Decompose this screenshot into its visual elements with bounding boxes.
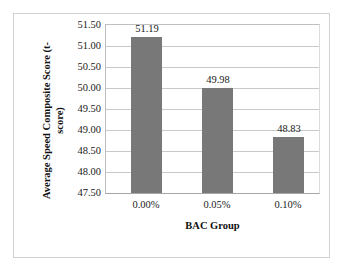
plot-area: 51.19 49.98 48.83 <box>105 24 320 194</box>
y-axis-tick-label: 48.50 <box>57 145 101 156</box>
y-axis-tick-label: 47.50 <box>57 187 101 198</box>
x-axis-tick-labels: 0.00% 0.05% 0.10% <box>105 198 320 214</box>
y-axis-tick-label: 51.50 <box>57 19 101 30</box>
x-axis-tick-label: 0.10% <box>253 198 323 211</box>
x-axis-tick-label: 0.05% <box>182 198 252 211</box>
y-axis-tick-label: 49.50 <box>57 103 101 114</box>
y-axis-tick-label: 49.00 <box>57 124 101 135</box>
y-axis-tick-label: 51.00 <box>57 40 101 51</box>
y-axis-title-container: Average Speed Composite Score (t- score) <box>26 20 54 200</box>
bar-value-label: 51.19 <box>121 23 173 35</box>
bar-0.00%[interactable] <box>131 37 162 193</box>
y-axis-tick-labels: 51.50 51.00 50.50 50.00 49.50 49.00 48.5… <box>53 24 101 194</box>
bar-value-label: 49.98 <box>192 74 244 86</box>
x-axis-title: BAC Group <box>105 220 320 231</box>
bar-value-label: 48.83 <box>263 123 315 135</box>
y-axis-tick-label: 48.00 <box>57 166 101 177</box>
y-axis-title-line1: Average Speed Composite Score (t- <box>41 42 52 199</box>
x-axis-tick-label: 0.00% <box>111 198 181 211</box>
figure: Average Speed Composite Score (t- score)… <box>0 0 343 274</box>
bar-0.10%[interactable] <box>273 137 304 193</box>
y-axis-tick-label: 50.00 <box>57 82 101 93</box>
bar-0.05%[interactable] <box>202 88 233 193</box>
y-axis-tick-label: 50.50 <box>57 61 101 72</box>
